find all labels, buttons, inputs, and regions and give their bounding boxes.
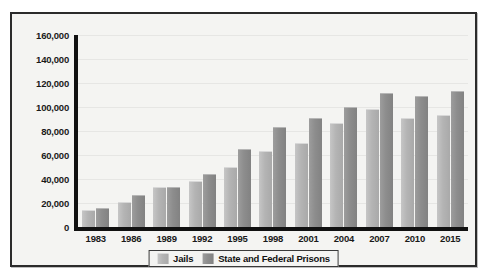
bar [167, 187, 180, 227]
bar [224, 167, 237, 227]
bar-group [295, 35, 322, 227]
bar-group [330, 35, 357, 227]
x-axis-tick-label: 1992 [192, 233, 212, 244]
bar [203, 174, 216, 227]
y-axis-tick-label: 100,000 [36, 102, 69, 113]
bar-group [189, 35, 216, 227]
bar [238, 149, 251, 227]
x-axis-tick-label: 1989 [156, 233, 176, 244]
legend-swatch-icon [202, 253, 213, 264]
bar-group [366, 35, 393, 227]
bar [366, 109, 379, 227]
chart-frame: 160,000140,000120,000100,00080,00060,000… [10, 12, 477, 267]
bar-groups [78, 35, 468, 227]
x-axis-tick-label: 2015 [440, 233, 460, 244]
x-axis-line [74, 227, 468, 231]
x-axis-tick-label: 2004 [334, 233, 354, 244]
bar [132, 195, 145, 227]
x-axis-tick-label: 2001 [298, 233, 318, 244]
bar [415, 96, 428, 227]
x-axis-tick-label: 1983 [86, 233, 106, 244]
x-axis-tick-label: 1986 [121, 233, 141, 244]
bar [344, 107, 357, 227]
legend-label: State and Federal Prisons [218, 253, 330, 264]
bar [118, 202, 131, 227]
x-axis-tick-label: 2007 [369, 233, 389, 244]
bar [380, 93, 393, 227]
plot-area [74, 35, 468, 231]
y-axis-tick-label: 0 [64, 222, 69, 233]
bar [401, 118, 414, 227]
bar-group [401, 35, 428, 227]
x-axis-tick-label: 1995 [227, 233, 247, 244]
bar-group [437, 35, 464, 227]
y-axis-tick-label: 60,000 [41, 150, 69, 161]
bar [82, 210, 95, 227]
y-axis-labels: 160,000140,000120,000100,00080,00060,000… [12, 35, 72, 231]
bar-group [82, 35, 109, 227]
bar [96, 208, 109, 227]
bar [437, 115, 450, 227]
y-axis-tick-label: 160,000 [36, 30, 69, 41]
x-axis-tick-label: 2010 [405, 233, 425, 244]
bar [330, 123, 343, 227]
legend-swatch-icon [157, 253, 168, 264]
bar [189, 181, 202, 227]
legend-label: Jails [173, 253, 193, 264]
chart-screenshot: 160,000140,000120,000100,00080,00060,000… [0, 0, 499, 280]
x-axis-labels: 1983198619891992199519982001200420072010… [78, 233, 468, 244]
bar [153, 187, 166, 227]
bar-group [224, 35, 251, 227]
y-axis-tick-label: 120,000 [36, 78, 69, 89]
bar [273, 127, 286, 227]
y-axis-tick-label: 140,000 [36, 54, 69, 65]
bar [451, 91, 464, 227]
legend-item: State and Federal Prisons [202, 253, 330, 264]
legend-item: Jails [157, 253, 193, 264]
y-axis-tick-label: 80,000 [41, 126, 69, 137]
bar [309, 118, 322, 227]
bar-group [153, 35, 180, 227]
chart-legend: JailsState and Federal Prisons [148, 250, 339, 267]
bar [259, 151, 272, 227]
y-axis-tick-label: 20,000 [41, 198, 69, 209]
bar-group [259, 35, 286, 227]
y-axis-tick-label: 40,000 [41, 174, 69, 185]
x-axis-tick-label: 1998 [263, 233, 283, 244]
bar-group [118, 35, 145, 227]
bar [295, 143, 308, 227]
